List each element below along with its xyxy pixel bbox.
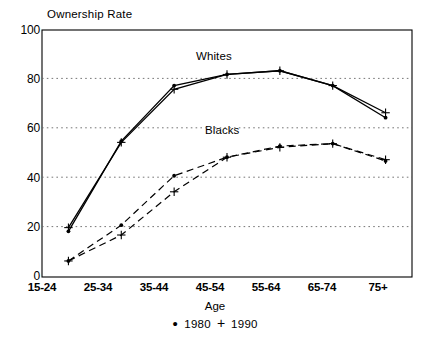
marker-whites-1990-45-54 <box>223 70 231 78</box>
marker-blacks-1990-45-54 <box>223 153 231 161</box>
marker-blacks-1980-35-44 <box>172 174 176 178</box>
marker-whites-1990-15-24 <box>64 223 72 231</box>
ownership-rate-chart: Ownership Rate 100 80 60 40 20 0 15-24 2… <box>0 0 428 342</box>
legend-label-1980: 1980 <box>182 318 213 330</box>
marker-blacks-1990-65-74 <box>329 139 337 147</box>
legend-plus-icon: + <box>213 318 229 329</box>
series-layer <box>64 67 390 266</box>
marker-blacks-1990-55-64 <box>276 143 284 151</box>
marker-blacks-1990-15-24 <box>64 257 72 265</box>
marker-blacks-1990-75+ <box>381 155 389 163</box>
marker-blacks-1990-35-44 <box>170 188 178 196</box>
marker-blacks-1980-25-34 <box>119 223 123 227</box>
marker-whites-1990-65-74 <box>329 81 337 89</box>
marker-whites-1990-55-64 <box>276 67 284 75</box>
legend-dot-icon: • <box>168 318 182 329</box>
chart-legend: •1980+1990 <box>0 317 428 330</box>
chart-plot-area <box>0 0 428 342</box>
legend-label-1990: 1990 <box>229 318 260 330</box>
